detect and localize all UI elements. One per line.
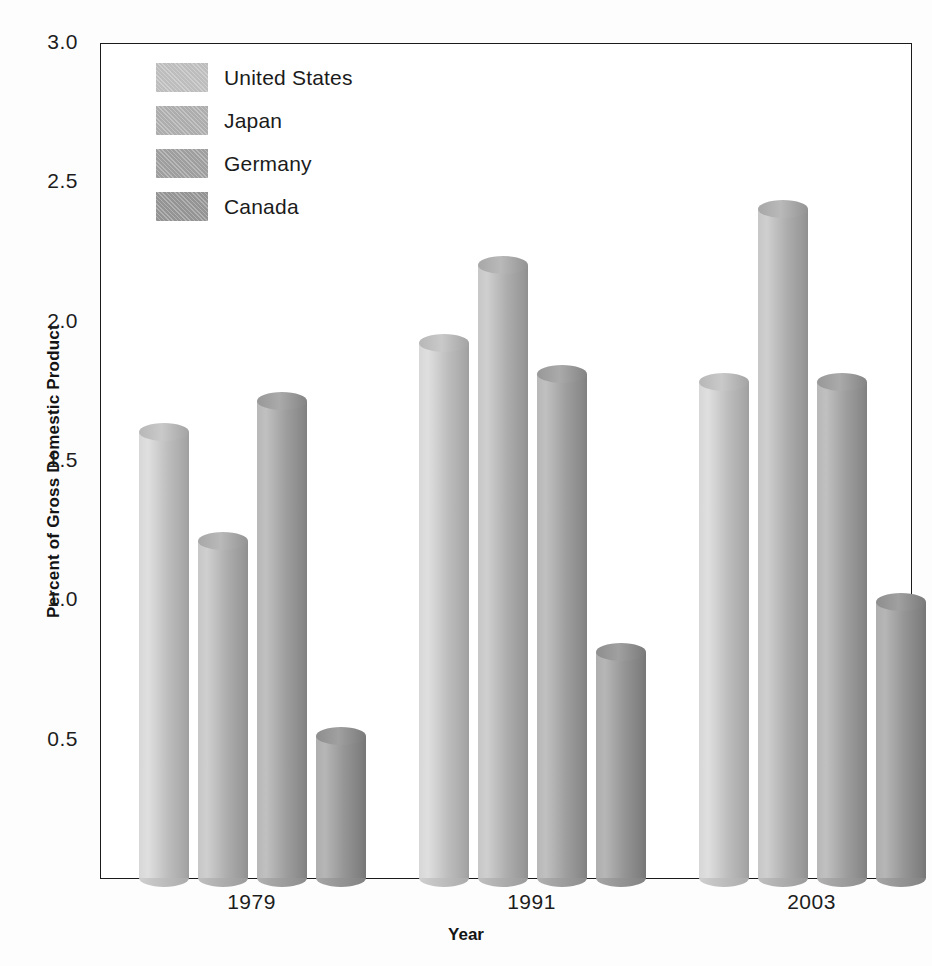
legend-label: Germany (224, 152, 312, 176)
bar-body (699, 382, 749, 878)
legend-swatch-icon (156, 63, 208, 92)
bar-top-cap (876, 593, 926, 611)
legend-label: Japan (224, 109, 282, 133)
bar-1979-united-states (139, 423, 189, 878)
bar-top-cap (699, 373, 749, 391)
bar-body (139, 432, 189, 878)
bar-body (758, 209, 808, 878)
bar-body (537, 374, 587, 878)
bar-1979-japan (198, 532, 248, 878)
bar-top-cap (478, 256, 528, 274)
chart-canvas: Percent of Gross Domestic Product 0.51.0… (0, 0, 932, 966)
bar-1991-germany (537, 365, 587, 878)
bar-body (419, 343, 469, 878)
legend-label: Canada (224, 195, 299, 219)
legend-swatch-icon (156, 106, 208, 135)
legend-label: United States (224, 66, 353, 90)
legend-item-japan[interactable]: Japan (156, 99, 353, 142)
bar-1991-japan (478, 256, 528, 878)
bar-body (478, 265, 528, 878)
bar-1991-canada (596, 643, 646, 878)
bar-top-cap (537, 365, 587, 383)
y-tick-label: 1.5 (18, 448, 78, 472)
x-tick-label-1979: 1979 (182, 890, 322, 914)
bar-2003-germany (817, 373, 867, 878)
bar-top-cap (419, 334, 469, 352)
bar-body (876, 602, 926, 878)
legend-swatch-icon (156, 192, 208, 221)
bar-2003-japan (758, 200, 808, 878)
bar-body (316, 736, 366, 878)
legend-item-canada[interactable]: Canada (156, 185, 353, 228)
bar-body (817, 382, 867, 878)
bar-body (257, 401, 307, 878)
bar-2003-canada (876, 593, 926, 878)
legend-item-united-states[interactable]: United States (156, 56, 353, 99)
bar-2003-united-states (699, 373, 749, 878)
bar-1979-canada (316, 727, 366, 878)
y-tick-label: 1.0 (18, 587, 78, 611)
y-tick-label: 3.0 (18, 30, 78, 54)
plot-area: United StatesJapanGermanyCanada (100, 43, 912, 879)
legend-swatch-icon (156, 149, 208, 178)
bar-body (198, 541, 248, 878)
legend: United StatesJapanGermanyCanada (156, 56, 353, 228)
bar-1979-germany (257, 392, 307, 878)
x-tick-label-2003: 2003 (742, 890, 882, 914)
x-tick-label-1991: 1991 (462, 890, 602, 914)
y-tick-label: 2.5 (18, 169, 78, 193)
bar-body (596, 652, 646, 878)
bar-top-cap (817, 373, 867, 391)
y-tick-label: 0.5 (18, 727, 78, 751)
bar-top-cap (198, 532, 248, 550)
y-tick-label: 2.0 (18, 309, 78, 333)
bar-top-cap (316, 727, 366, 745)
legend-item-germany[interactable]: Germany (156, 142, 353, 185)
x-axis-title: Year (0, 925, 932, 945)
bar-1991-united-states (419, 334, 469, 878)
